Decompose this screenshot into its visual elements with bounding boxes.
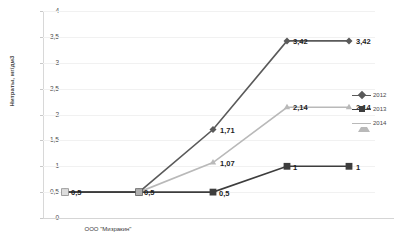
series-markers-2013 <box>62 163 353 196</box>
value-label-3-42-b: 3,42 <box>356 37 371 46</box>
plot-area: 0,5 0,5 0,5 1,71 1,07 3,42 3,42 2,14 2,1… <box>43 11 375 218</box>
legend-marker-2012-icon <box>352 91 371 100</box>
legend-marker-2014-icon <box>352 119 371 128</box>
value-label-1-a: 1 <box>293 163 297 172</box>
legend-label-2012: 2012 <box>373 92 386 98</box>
value-label-2-14-a: 2,14 <box>293 103 308 112</box>
value-label-1-71: 1,71 <box>220 126 235 135</box>
legend-item-2014[interactable]: 2014 <box>352 116 396 130</box>
x-axis-tick-labels: ООО "Мизракин" <box>36 222 396 240</box>
series-layer <box>43 11 375 218</box>
y-axis-title: Нитраты, мг/дм3 <box>9 42 15 120</box>
value-label-0-5-third: 0,5 <box>219 189 229 198</box>
legend-item-2013[interactable]: 2013 <box>352 102 396 116</box>
x-axis-line <box>43 218 394 219</box>
series-line-2012 <box>65 41 349 192</box>
legend-marker-2013-icon <box>352 105 371 114</box>
value-label-3-42-a: 3,42 <box>293 37 308 46</box>
value-label-1-07: 1,07 <box>220 159 235 168</box>
series-line-2013 <box>65 166 349 192</box>
value-label-1-b: 1 <box>356 163 360 172</box>
chart-legend: 2012 2013 2014 <box>352 88 396 130</box>
series-line-2014 <box>65 107 349 192</box>
nitrates-line-chart: Нитраты, мг/дм3 4 3,5 3 2,5 2 1,5 1 0,5 … <box>0 0 396 242</box>
series-markers-2012 <box>62 37 353 195</box>
legend-item-2012[interactable]: 2012 <box>352 88 396 102</box>
value-label-0-5-second: 0,5 <box>144 188 154 197</box>
legend-label-2014: 2014 <box>373 120 386 126</box>
series-markers-2014 <box>62 104 352 194</box>
legend-label-2013: 2013 <box>373 106 386 112</box>
value-label-0-5-first: 0,5 <box>71 188 81 197</box>
x-label-0: ООО "Мизракин" <box>85 226 132 232</box>
